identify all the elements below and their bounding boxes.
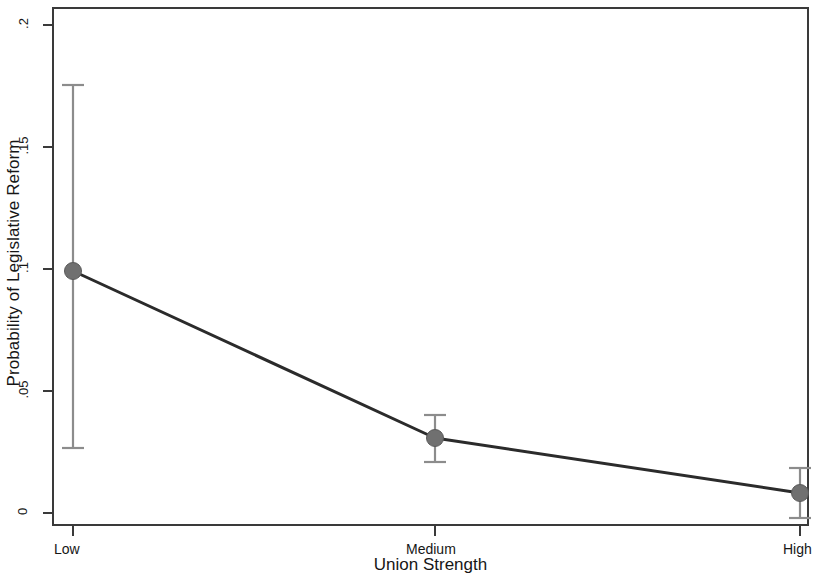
y-axis-title: Probability of Legislative Reform [4,139,24,386]
axis-frame [53,8,808,525]
line-chart-plot [0,0,818,582]
x-axis-title: Union Strength [53,555,808,575]
data-point-medium [427,430,444,447]
y-axis-title-wrap: Probability of Legislative Reform [0,0,28,525]
data-line [73,271,800,493]
x-axis-ticks [73,525,800,536]
data-markers [65,263,809,502]
chart-figure: .2 .15 .1 .05 0 Probability of Legislati… [0,0,818,582]
data-point-low [65,263,82,280]
y-axis-ticks [43,25,53,513]
error-bars [62,85,811,518]
data-point-high [792,485,809,502]
